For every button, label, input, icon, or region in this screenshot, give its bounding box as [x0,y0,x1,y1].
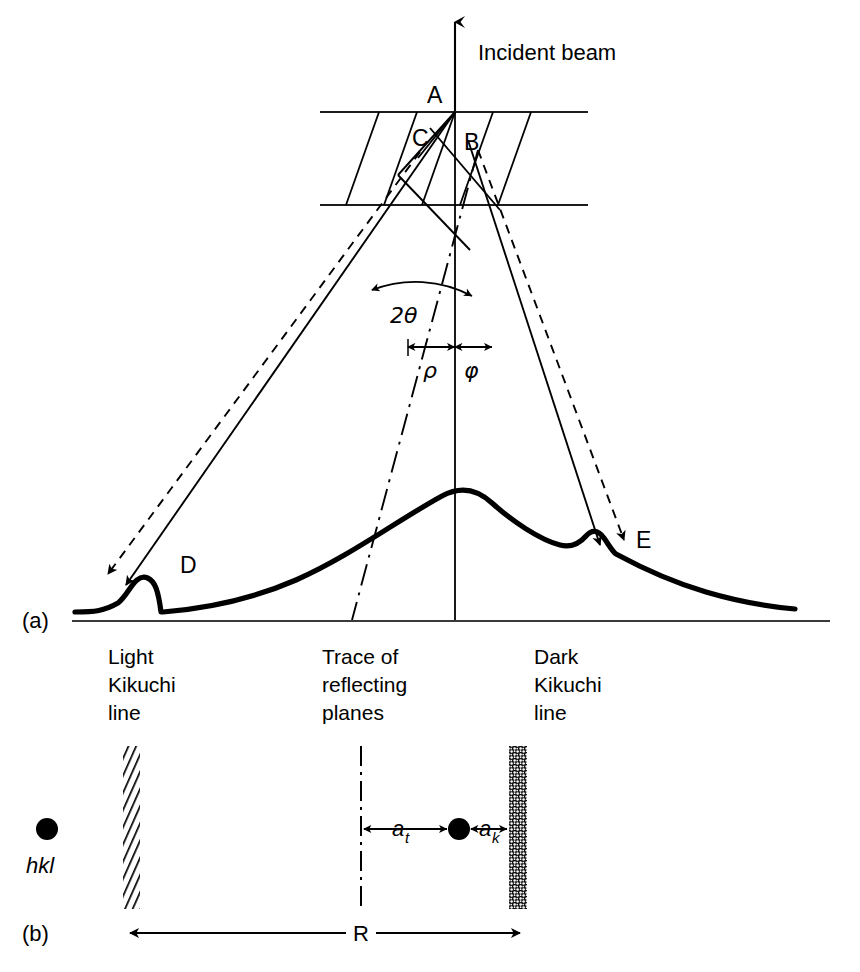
point-label-C: C [412,125,429,151]
intensity-profile-curve [75,490,795,612]
panel-label-a: (a) [22,608,49,633]
incident-beam-label: Incident beam [478,40,616,65]
kikuchi-diagram: A B C D E Incident beam 2θ ρ φ (a) Light… [0,0,860,972]
point-label-D: D [180,552,197,578]
caption-dark-kikuchi-line: Dark Kikuchi line [534,645,602,724]
point-label-E: E [636,527,651,553]
hkl-reflection-spot [36,818,58,840]
svg-text:Dark: Dark [534,645,579,668]
scattered-ray-bundle [126,112,600,585]
svg-text:planes: planes [322,701,384,724]
dark-line-band [509,746,527,909]
phi-label: φ [464,358,479,383]
R-label: R [353,921,369,946]
svg-text:Kikuchi: Kikuchi [108,673,176,696]
svg-text:line: line [534,701,567,724]
point-label-A: A [427,82,443,108]
svg-text:line: line [108,701,141,724]
point-label-B: B [464,129,479,155]
lattice-plane-traces [346,112,531,205]
panel-label-b: (b) [22,921,49,946]
svg-text:Trace of: Trace of [322,645,398,668]
svg-text:Kikuchi: Kikuchi [534,673,602,696]
svg-text:reflecting: reflecting [322,673,407,696]
dashed-scattered-rays [108,150,624,574]
svg-text:a: a [479,816,491,841]
two-theta-arc [372,282,472,296]
rho-label: ρ [423,358,437,383]
light-line-band [123,746,140,909]
caption-light-kikuchi-line: Light Kikuchi line [108,645,176,724]
svg-text:t: t [405,829,410,846]
diffraction-spot [448,818,470,840]
a-k-label: a k [479,816,501,846]
svg-text:k: k [492,829,501,846]
hkl-label: hkl [26,853,55,878]
trace-of-reflecting-planes-line [352,150,478,620]
svg-text:Light: Light [108,645,154,668]
svg-text:a: a [392,816,404,841]
figure-root: A B C D E Incident beam 2θ ρ φ (a) Light… [0,0,860,972]
a-t-label: a t [392,816,410,846]
caption-trace-of-reflecting-planes: Trace of reflecting planes [322,645,407,724]
two-theta-label: 2θ [390,303,418,328]
